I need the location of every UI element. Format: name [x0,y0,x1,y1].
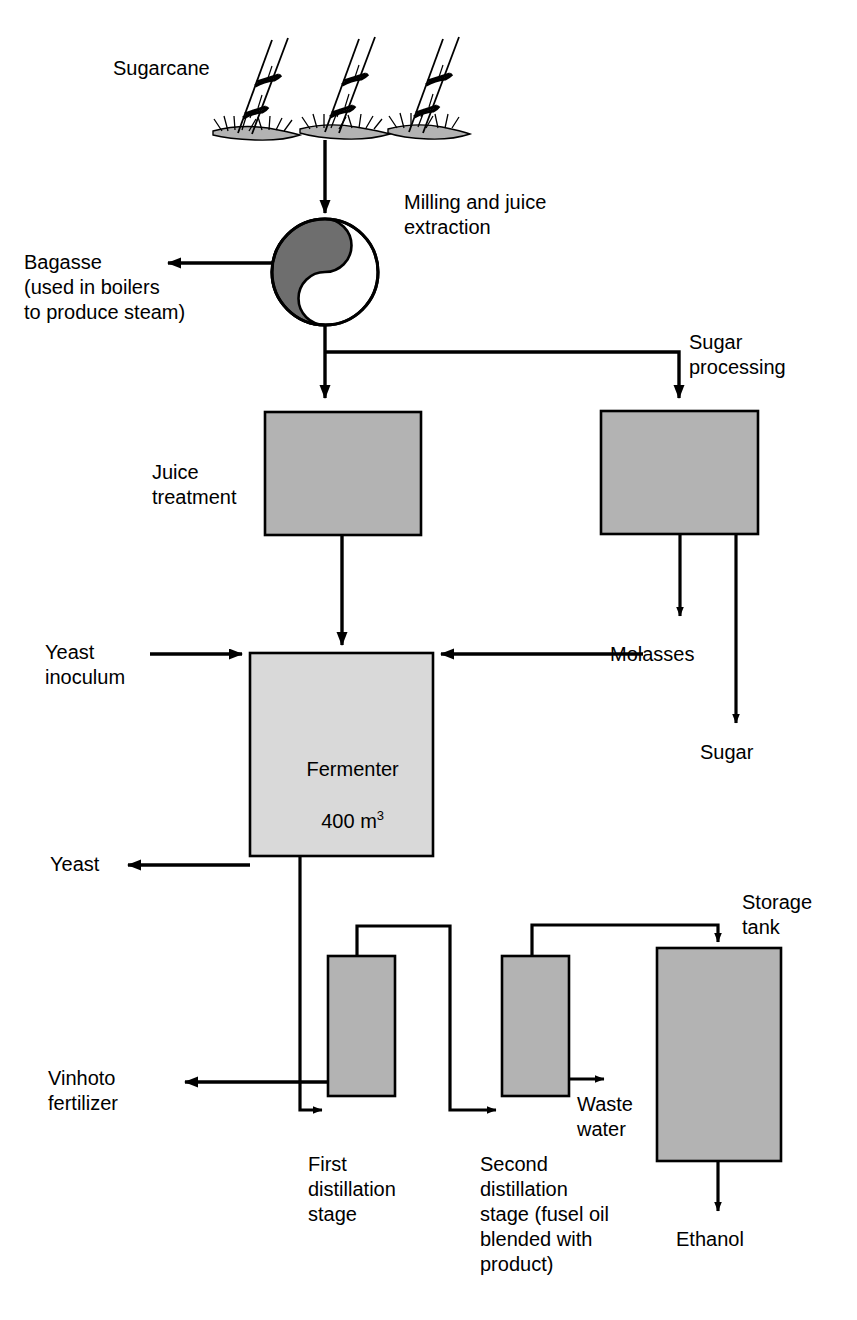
sugar-processing-box [601,411,758,534]
label-ethanol: Ethanol [676,1227,744,1252]
fermenter-label: Fermenter 400 m3 [250,730,433,860]
label-sugar: Sugar [700,740,753,765]
label-sugar-processing: Sugar processing [689,330,786,380]
milling-icon [272,219,378,325]
label-second-distillation: Second distillation stage (fusel oil ble… [480,1152,609,1277]
label-sugarcane: Sugarcane [113,56,210,81]
process-flow-diagram: Sugarcane Milling and juice extraction B… [0,0,857,1320]
label-yeast-inoculum: Yeast inoculum [45,640,125,690]
label-bagasse: Bagasse (used in boilers to produce stea… [24,250,185,325]
second-distillation-column [502,956,569,1096]
flow-fermenter-to-first-distillation [300,856,322,1110]
flow-mill-to-sugar-processing [325,352,679,398]
storage-tank-box [657,948,781,1161]
label-milling: Milling and juice extraction [404,190,546,240]
fermenter-name: Fermenter [306,758,398,780]
label-juice-treatment: Juice treatment [152,460,236,510]
juice-treatment-box [265,412,421,535]
first-distillation-column [328,956,395,1096]
label-vinhoto-fertilizer: Vinhoto fertilizer [48,1066,118,1116]
label-storage-tank: Storage tank [742,890,812,940]
label-first-distillation: First distillation stage [308,1152,396,1227]
label-molasses: Molasses [610,642,694,667]
fermenter-volume: 400 m [321,810,377,832]
fermenter-volume-exponent: 3 [377,808,384,823]
label-waste-water: Waste water [577,1092,633,1142]
sugarcane-icon [213,37,470,140]
label-yeast: Yeast [50,852,99,877]
